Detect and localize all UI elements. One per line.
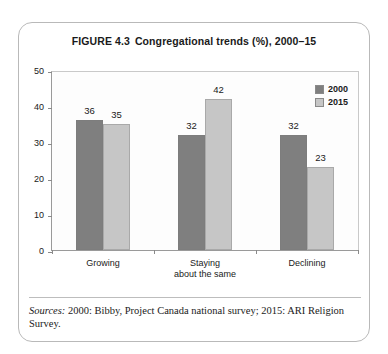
bar-2000-growing bbox=[76, 120, 103, 250]
x-axis-label-line: Declining bbox=[247, 258, 367, 269]
x-axis-tick bbox=[52, 250, 53, 254]
bar-value-2000: 32 bbox=[280, 120, 307, 131]
bar-value-2015: 23 bbox=[307, 152, 334, 163]
figure-number: FIGURE 4.3 bbox=[72, 35, 130, 47]
bar-value-2015: 35 bbox=[103, 109, 130, 120]
bar-group-staying-about-the-same: 32 42 bbox=[178, 72, 232, 250]
y-tick-label: 30 bbox=[34, 138, 44, 148]
bar-2015-declining bbox=[307, 167, 334, 250]
figure-title-text: Congregational trends (%), 2000–15 bbox=[135, 35, 316, 47]
y-tick-label: 10 bbox=[34, 210, 44, 220]
bar-value-2000: 32 bbox=[178, 120, 205, 131]
source-text: 2000: Bibby, Project Canada national sur… bbox=[29, 305, 344, 329]
x-axis-tick bbox=[358, 250, 359, 254]
y-tick-label: 0 bbox=[39, 246, 44, 256]
y-tick-mark bbox=[48, 180, 52, 181]
y-tick-mark bbox=[48, 216, 52, 217]
source-note: Sources: 2000: Bibby, Project Canada nat… bbox=[29, 304, 359, 330]
x-axis-tick bbox=[154, 250, 155, 254]
bar-2000-declining bbox=[280, 135, 307, 250]
bar-value-2000: 36 bbox=[76, 105, 103, 116]
y-tick-mark bbox=[48, 144, 52, 145]
figure-title: FIGURE 4.3Congregational trends (%), 200… bbox=[19, 35, 369, 47]
x-axis-tick bbox=[256, 250, 257, 254]
chart-plot-area: 50 40 30 20 10 0 20 bbox=[51, 71, 359, 251]
source-label: Sources: bbox=[29, 305, 65, 316]
y-tick-label: 50 bbox=[34, 66, 44, 76]
y-tick-label: 20 bbox=[34, 174, 44, 184]
bar-value-2015: 42 bbox=[205, 84, 232, 95]
source-divider bbox=[29, 297, 361, 298]
x-axis-label-line: about the same bbox=[145, 269, 265, 280]
bar-group-growing: 36 35 bbox=[76, 72, 130, 250]
y-tick-label: 40 bbox=[34, 102, 44, 112]
bar-group-declining: 32 23 bbox=[280, 72, 334, 250]
y-tick-mark bbox=[48, 72, 52, 73]
bar-2015-growing bbox=[103, 124, 130, 250]
bar-2015-staying bbox=[205, 99, 232, 250]
bar-2000-staying bbox=[178, 135, 205, 250]
y-tick-mark bbox=[48, 108, 52, 109]
x-axis-label-declining: Declining bbox=[247, 258, 367, 269]
figure-card: FIGURE 4.3Congregational trends (%), 200… bbox=[18, 22, 370, 342]
